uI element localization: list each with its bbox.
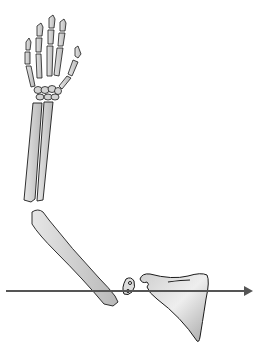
hand <box>25 15 81 89</box>
carpals <box>34 86 62 101</box>
scapula <box>140 274 208 342</box>
arm-skeleton-figure <box>0 0 259 364</box>
clavicle <box>123 278 135 295</box>
forearm <box>24 102 53 202</box>
